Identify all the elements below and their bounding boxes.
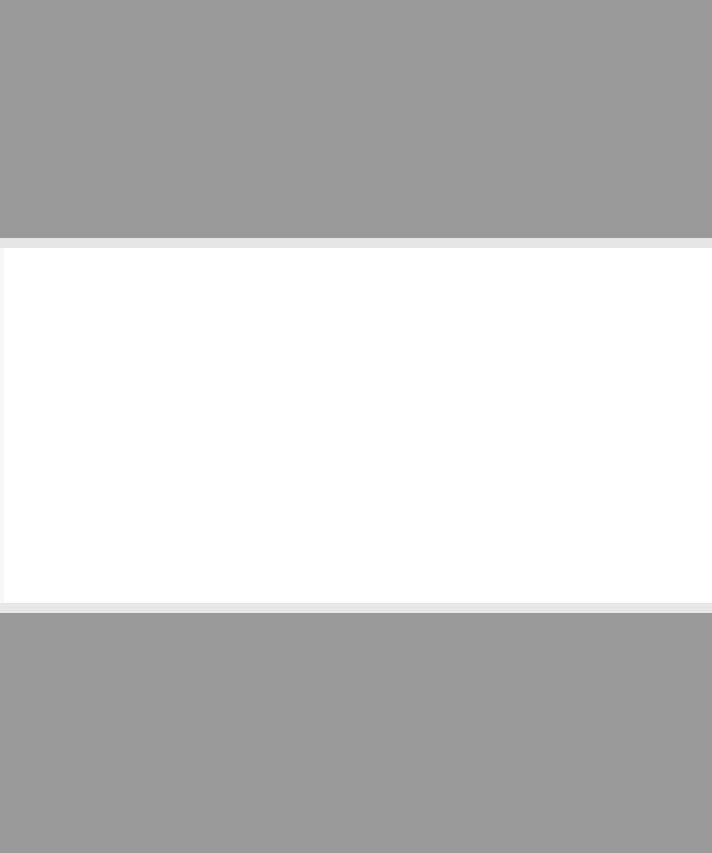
overlay-backdrop-top[interactable]	[0, 0, 712, 238]
panel-left-edge	[0, 248, 4, 603]
panel-top-border	[0, 238, 712, 248]
overlay-backdrop-bottom[interactable]	[0, 613, 712, 853]
screen	[0, 0, 712, 853]
panel-bottom-border	[0, 603, 712, 613]
blank-content-panel	[0, 248, 712, 603]
